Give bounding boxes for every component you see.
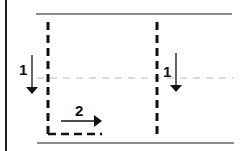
left-arrow-label: 1: [19, 61, 27, 78]
right-arrow-label: 1: [163, 63, 171, 80]
left-down-arrow-icon: [26, 55, 38, 94]
bottom-arrow-label: 2: [75, 102, 83, 119]
right-down-arrow-icon: [170, 53, 182, 92]
diagram-canvas: 1 1 2: [0, 0, 252, 151]
